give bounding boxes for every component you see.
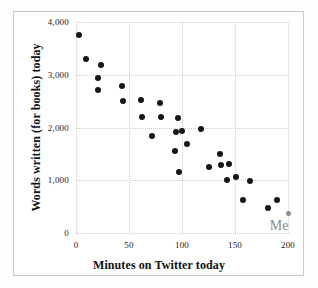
x-tick-label: 100 [175, 240, 189, 250]
y-axis-label-container: Words written (for books) today [22, 0, 36, 240]
data-point [138, 97, 144, 103]
x-tick-label: 150 [228, 240, 242, 250]
y-tick-label: 3,000 [0, 70, 69, 80]
x-tick-label: 0 [74, 240, 79, 250]
data-point [198, 126, 204, 132]
gridline-horizontal [76, 180, 288, 181]
y-tick-label: 4,000 [0, 17, 69, 27]
data-point [119, 83, 125, 89]
data-point [224, 177, 230, 183]
data-point [218, 162, 224, 168]
data-point [184, 141, 190, 147]
data-point [206, 164, 212, 170]
data-point [95, 75, 101, 81]
y-tick-label: 0 [0, 228, 69, 238]
x-tick-label: 200 [281, 240, 295, 250]
data-point [158, 114, 164, 120]
data-point [172, 148, 178, 154]
gridline-horizontal [76, 75, 288, 76]
data-point [247, 178, 253, 184]
y-tick-label: 2,000 [0, 123, 69, 133]
data-point [233, 174, 239, 180]
y-tick-label: 1,000 [0, 175, 69, 185]
data-point [274, 197, 280, 203]
x-tick-label: 50 [124, 240, 133, 250]
scatter-chart-figure: Words written (for books) today 01,0002,… [0, 0, 318, 288]
data-point [240, 197, 246, 203]
gridline-horizontal [76, 233, 288, 234]
data-point [76, 32, 82, 38]
data-point [149, 133, 155, 139]
gridline-vertical [288, 22, 289, 233]
data-point [98, 62, 104, 68]
gridline-horizontal [76, 22, 288, 23]
data-point [139, 114, 145, 120]
data-point [176, 169, 182, 175]
data-point [157, 100, 163, 106]
data-point [175, 115, 181, 121]
data-point [173, 129, 179, 135]
data-point [95, 87, 101, 93]
data-point [83, 56, 89, 62]
annotation-label-me: Me [270, 218, 289, 234]
data-point [120, 98, 126, 104]
data-point [179, 128, 185, 134]
data-point [217, 151, 223, 157]
data-point [226, 161, 232, 167]
data-point-highlighted [286, 211, 291, 216]
x-axis-label: Minutes on Twitter today [0, 258, 318, 273]
plot-area [76, 22, 288, 233]
data-point [265, 205, 271, 211]
